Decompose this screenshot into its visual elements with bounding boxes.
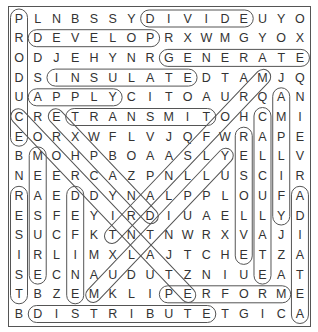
found-word-multiply (83, 145, 237, 306)
found-word-distribute (28, 306, 216, 323)
found-word-coordinate (8, 106, 199, 306)
found-word-perform (159, 286, 290, 303)
found-word-divide (141, 10, 254, 27)
found-word-expand (45, 106, 161, 227)
found-word-define (67, 186, 84, 303)
found-word-resolve (235, 127, 252, 264)
found-word-apply (28, 89, 122, 106)
found-word-generate (159, 49, 309, 66)
found-word-transmit (66, 109, 216, 126)
found-word-resist (11, 186, 28, 303)
found-word-outlines (0, 0, 318, 332)
found-word-develop (28, 30, 159, 47)
found-word-amplify (273, 88, 290, 225)
found-word-produce (11, 9, 28, 146)
found-word-measure (29, 147, 46, 284)
found-word-calculate (254, 108, 271, 285)
found-word-radiate (291, 186, 308, 323)
found-word-insulate (47, 69, 197, 86)
